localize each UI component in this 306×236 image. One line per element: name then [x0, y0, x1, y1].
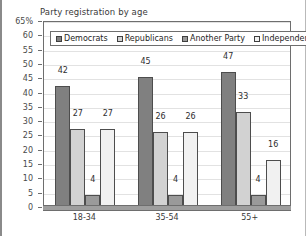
bar[interactable]	[153, 132, 168, 206]
x-tick-label: 18-34	[73, 213, 96, 222]
legend-label: Republicans	[125, 34, 173, 43]
y-tick-label: 0	[28, 203, 33, 212]
y-tick-label: 55	[23, 45, 33, 54]
bar-series-group: 422742745264264733416	[44, 22, 290, 206]
bar-value-label: 33	[232, 92, 255, 101]
y-tick-mark	[38, 135, 42, 136]
y-tick-mark	[38, 178, 42, 179]
bar[interactable]	[100, 129, 115, 206]
bar[interactable]	[183, 132, 198, 206]
plot-area: 422742745264264733416	[43, 21, 291, 207]
bar[interactable]	[70, 129, 85, 206]
bar-value-label: 47	[217, 52, 240, 61]
bar[interactable]	[266, 160, 281, 206]
legend-swatch-icon	[56, 36, 62, 42]
y-tick-label: 40	[23, 88, 33, 97]
chart-legend: DemocratsRepublicansAnother PartyIndepen…	[50, 31, 306, 46]
y-tick-label: 45	[23, 74, 33, 83]
legend-label: Democrats	[64, 34, 108, 43]
bar-value-label: 26	[149, 112, 172, 121]
legend-swatch-icon	[117, 36, 123, 42]
legend-label: Another Party	[190, 34, 245, 43]
bar-value-label: 16	[262, 140, 285, 149]
y-tick-mark	[38, 78, 42, 79]
legend-swatch-icon	[182, 36, 188, 42]
bar-group: 4526426	[127, 22, 210, 206]
x-tick-label: 55+	[241, 213, 258, 222]
y-tick-label: 60	[23, 31, 33, 40]
y-axis: 65%605550454035302520151050	[2, 21, 43, 207]
legend-item[interactable]: Democrats	[56, 34, 108, 43]
y-tick-mark	[38, 150, 42, 151]
bar-value-label: 27	[66, 109, 89, 118]
chart-container: Party registration by age 65%60555045403…	[0, 0, 306, 236]
y-tick-mark	[38, 207, 42, 208]
y-tick-label: 30	[23, 117, 33, 126]
y-tick-mark	[38, 50, 42, 51]
y-tick-mark	[38, 64, 42, 65]
y-tick-label: 50	[23, 59, 33, 68]
y-tick-label: 25	[23, 131, 33, 140]
bar-value-label: 26	[179, 112, 202, 121]
chart-title: Party registration by age	[40, 7, 148, 17]
y-tick-label: 10	[23, 174, 33, 183]
y-tick-label: 65%	[15, 17, 33, 26]
bar[interactable]	[55, 86, 70, 206]
bar[interactable]	[236, 112, 251, 206]
bar-value-label: 42	[51, 66, 74, 75]
y-tick-mark	[38, 107, 42, 108]
y-tick-mark	[38, 35, 42, 36]
y-tick-mark	[38, 164, 42, 165]
legend-item[interactable]: Independents	[254, 34, 306, 43]
y-tick-mark	[38, 21, 42, 22]
bar-value-label: 45	[134, 57, 157, 66]
x-axis: 18-3435-5455+	[43, 211, 291, 227]
y-tick-label: 15	[23, 160, 33, 169]
bar-group: 4733416	[209, 22, 291, 206]
legend-item[interactable]: Republicans	[117, 34, 173, 43]
legend-label: Independents	[262, 34, 306, 43]
y-tick-label: 20	[23, 145, 33, 154]
y-tick-label: 35	[23, 102, 33, 111]
y-tick-label: 5	[28, 188, 33, 197]
legend-swatch-icon	[254, 36, 260, 42]
bar-value-label: 27	[96, 109, 119, 118]
y-tick-mark	[38, 193, 42, 194]
y-tick-mark	[38, 121, 42, 122]
bar[interactable]	[138, 77, 153, 206]
legend-item[interactable]: Another Party	[182, 34, 245, 43]
y-tick-mark	[38, 93, 42, 94]
x-tick-label: 35-54	[155, 213, 178, 222]
bar-group: 4227427	[44, 22, 127, 206]
